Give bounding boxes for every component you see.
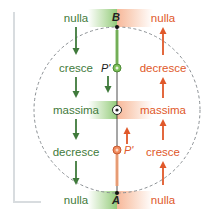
lower-p-prime-inner <box>116 149 119 152</box>
left-arrow-down-icon-3 <box>73 119 80 140</box>
right-label-2: decresce <box>140 61 187 75</box>
right-label-top: nulla <box>151 11 175 25</box>
right-label-4: cresce <box>146 145 180 159</box>
point-b-label: B <box>112 11 120 23</box>
right-arrow-up-icon-1 <box>160 27 167 55</box>
left-label-4: decresce <box>53 145 100 159</box>
point-a-label: A <box>112 194 120 206</box>
left-arrow-down-icon-4 <box>73 161 80 185</box>
right-arrow-up-icon-4 <box>160 161 167 185</box>
upper-p-prime-velocity-arrow-icon <box>105 76 112 93</box>
right-label-middle: massima <box>140 103 186 117</box>
point-b-dot <box>115 25 119 29</box>
upper-p-prime-label: P' <box>101 62 110 74</box>
right-arrow-up-icon-3 <box>160 119 167 140</box>
left-label-middle: massima <box>53 103 99 117</box>
upper-p-prime-inner <box>116 67 119 70</box>
left-label-top: nulla <box>64 11 88 25</box>
left-arrow-down-icon-2 <box>73 77 80 98</box>
left-label-2: cresce <box>59 61 93 75</box>
right-arrow-up-icon-2 <box>160 77 167 98</box>
left-label-bottom: nulla <box>64 193 88 207</box>
lower-p-prime-label: P' <box>124 144 133 156</box>
right-label-bottom: nulla <box>151 193 175 207</box>
left-arrow-down-icon-1 <box>73 27 80 55</box>
center-point-dot <box>115 108 118 111</box>
lower-p-prime-velocity-arrow-icon <box>124 127 131 144</box>
